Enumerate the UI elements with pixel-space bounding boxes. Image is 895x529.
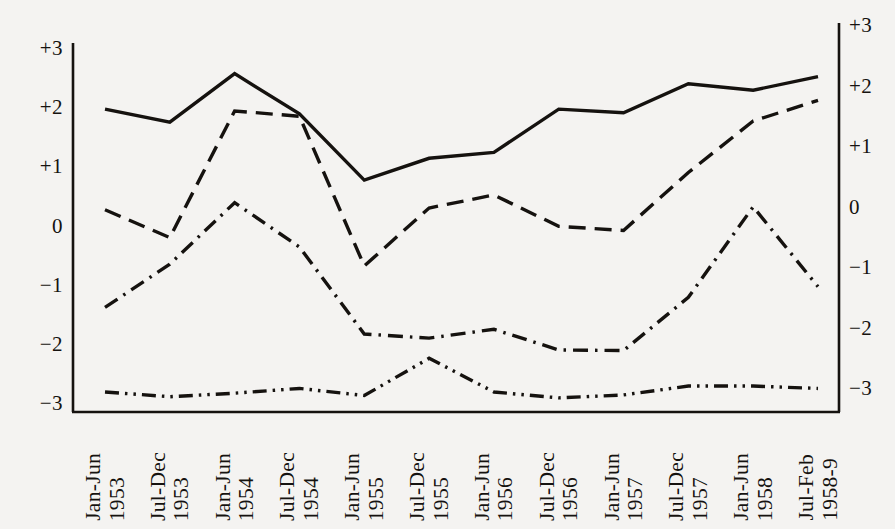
series-dash-dot [105, 203, 818, 351]
left-axis-tick-5: −2 [40, 332, 63, 357]
x-axis-label-1: Jul-Dec1953 [148, 452, 193, 521]
x-axis-label-period-5: Jul-Dec [407, 452, 429, 521]
right-axis-tick-1: +2 [849, 74, 872, 99]
right-axis-tick-6: −3 [849, 376, 872, 401]
x-axis-label-year-10: 1958 [755, 477, 777, 521]
left-axis-tick-4: −1 [40, 273, 63, 298]
right-axis-tick-5: −2 [849, 316, 872, 341]
right-axis-tick-0: +3 [849, 13, 872, 38]
chart-figure: +3+2+10−1−2−3 +3+2+10−1−2−3 Jan-Jun1953J… [0, 0, 895, 529]
x-axis-label-period-0: Jan-Jun [83, 453, 105, 521]
right-axis-tick-4: −1 [849, 255, 872, 280]
x-axis-label-year-8: 1957 [625, 477, 647, 521]
x-axis-label-year-0: 1953 [107, 477, 129, 521]
right-axis-tick-3: 0 [849, 195, 860, 220]
x-axis-label-9: Jul-Dec1957 [666, 452, 711, 521]
chart-axes [72, 23, 840, 412]
left-axis-tick-3: 0 [52, 214, 63, 239]
right-axis-tick-2: +1 [849, 134, 872, 159]
x-axis-label-year-9: 1957 [690, 477, 712, 521]
x-axis-label-year-1: 1953 [171, 477, 193, 521]
left-axis-tick-2: +1 [40, 154, 63, 179]
x-axis-label-period-9: Jul-Dec [666, 452, 688, 521]
x-axis-label-0: Jan-Jun1953 [83, 453, 128, 521]
left-axis-tick-0: +3 [40, 36, 63, 61]
x-axis-label-year-6: 1956 [495, 477, 517, 521]
line-chart-canvas [0, 0, 895, 529]
x-axis-label-11: Jul-Feb1958-9 [796, 454, 841, 521]
x-axis-label-period-2: Jan-Jun [213, 453, 235, 521]
x-axis-label-period-10: Jan-Jun [731, 453, 753, 521]
x-axis-label-period-7: Jul-Dec [537, 452, 559, 521]
left-axis-tick-1: +2 [40, 95, 63, 120]
x-axis-label-year-3: 1954 [301, 477, 323, 521]
chart-series [105, 74, 818, 398]
x-axis-label-period-8: Jan-Jun [602, 453, 624, 521]
x-axis-label-period-3: Jul-Dec [277, 452, 299, 521]
left-axis-tick-6: −3 [40, 391, 63, 416]
x-axis-label-period-1: Jul-Dec [148, 452, 170, 521]
x-axis-label-year-7: 1956 [560, 477, 582, 521]
x-axis-label-period-6: Jan-Jun [472, 453, 494, 521]
x-axis-label-10: Jan-Jun1958 [731, 453, 776, 521]
x-axis-label-3: Jul-Dec1954 [277, 452, 322, 521]
x-axis-label-period-4: Jan-Jun [342, 453, 364, 521]
x-axis-label-5: Jul-Dec1955 [407, 452, 452, 521]
x-axis-label-period-11: Jul-Feb [796, 454, 818, 521]
x-axis-label-2: Jan-Jun1954 [213, 453, 258, 521]
x-axis-label-year-2: 1954 [236, 477, 258, 521]
x-axis-label-year-4: 1955 [366, 477, 388, 521]
x-axis-label-6: Jan-Jun1956 [472, 453, 517, 521]
series-dashed [105, 100, 818, 266]
x-axis-label-4: Jan-Jun1955 [342, 453, 387, 521]
x-axis-label-year-5: 1955 [431, 477, 453, 521]
x-axis-label-8: Jan-Jun1957 [602, 453, 647, 521]
series-dash-dot-dot [105, 358, 818, 398]
x-axis-label-7: Jul-Dec1956 [537, 452, 582, 521]
series-solid [105, 74, 818, 181]
x-axis-label-year-11: 1958-9 [820, 458, 842, 521]
